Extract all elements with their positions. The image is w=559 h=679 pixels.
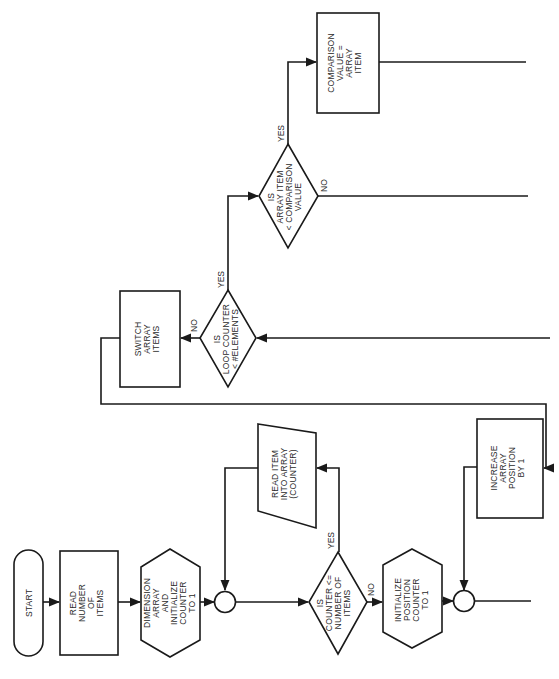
edge-label-no: NO (189, 319, 199, 332)
init-position-preparation: INITIALIZE POSITION COUNTER TO 1 (383, 549, 442, 648)
read-count-process: READ NUMBER OF ITEMS (60, 551, 118, 655)
svg-text:BY 1: BY 1 (516, 458, 526, 477)
svg-text:VALUE: VALUE (293, 183, 303, 211)
arrow-increase-to-connector2 (464, 467, 477, 590)
svg-text:TO 1: TO 1 (420, 590, 430, 610)
svg-text:ITEM: ITEM (353, 52, 363, 73)
decision-counter: IS COUNTER <= NUMBER OF ITEMS YES NO (309, 532, 376, 654)
svg-text:TO 1: TO 1 (187, 593, 197, 613)
edge-label-yes: YES (216, 271, 226, 288)
svg-text:ITEMS: ITEMS (151, 325, 161, 352)
connector-circle-1 (215, 592, 236, 613)
dimension-array-preparation: DIMENSION ARRAY AND INITIALIZE COUNTER T… (141, 549, 200, 657)
decision-compare: IS ARRAY ITEM < COMPARISON VALUE YES NO (259, 125, 329, 248)
svg-text:ITEMS: ITEMS (342, 589, 352, 616)
edge-label-yes: YES (276, 125, 286, 142)
connector-circle-2 (454, 591, 475, 612)
switch-items-process: SWITCH ARRAY ITEMS (120, 291, 180, 387)
start-label: START (24, 589, 34, 617)
edge-label-no: NO (366, 583, 376, 596)
arrow-read-item-to-connector (225, 468, 259, 590)
svg-text:(COUNTER): (COUNTER) (288, 449, 298, 499)
increase-position-process: INCREASE ARRAY POSITION BY 1 (477, 419, 543, 518)
svg-text:ITEMS: ITEMS (95, 589, 105, 616)
svg-text:< #ELEMENTS: < #ELEMENTS (230, 309, 240, 369)
read-item-input: READ ITEM INTO ARRAY (COUNTER) (258, 424, 316, 528)
flowchart-canvas: START READ NUMBER OF ITEMS DIMENSION ARR… (0, 0, 559, 679)
arrow-yes-to-set-compare (288, 62, 316, 144)
edge-label-yes: YES (326, 532, 336, 549)
decision-loop-counter: IS LOOP COUNTER < #ELEMENTS YES NO (189, 271, 256, 387)
arrow-yes-to-compare-decision (228, 196, 258, 290)
edge-label-no: NO (319, 179, 329, 192)
start-terminal: START (14, 550, 43, 656)
set-compare-process: COMPARISON VALUE = ARRAY ITEM (317, 13, 379, 113)
